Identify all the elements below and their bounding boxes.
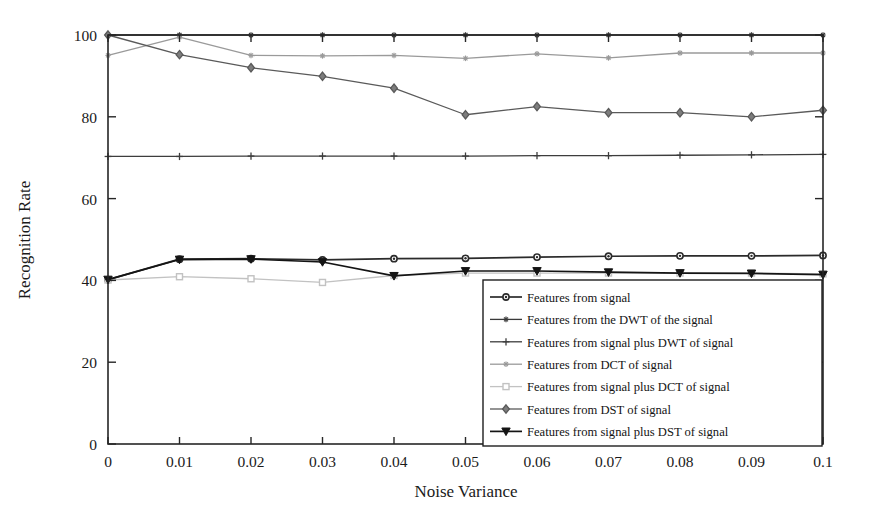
legend-label: Features from signal plus DCT of signal [527,380,730,394]
y-tick-label: 40 [82,272,98,289]
x-tick-label: 0.01 [166,453,193,470]
recognition-rate-line-chart: 00.010.020.030.040.050.060.070.080.090.1… [0,0,871,530]
data-point-circle [605,253,611,259]
data-point-star [248,53,253,59]
data-point-square [248,276,254,282]
series-5 [105,31,827,121]
legend-label: Features from signal plus DST of signal [527,425,729,439]
data-point-diamond [677,109,684,117]
data-point-plus [534,152,541,159]
series-2 [105,151,827,160]
legend-label: Features from signal plus DWT of signal [527,336,734,350]
y-tick-label: 0 [89,436,97,453]
data-point-plus [319,152,326,159]
data-point-circle [534,254,540,260]
x-tick-label: 0.05 [452,453,479,470]
data-point-circle [462,255,468,261]
series-layer [104,31,827,286]
data-point-plus [391,152,398,159]
data-point-circle [748,253,754,259]
x-axis-label: Noise Variance [414,482,517,501]
data-point-plus [748,151,755,158]
legend-item-2[interactable]: Features from signal plus DWT of signal [490,336,734,350]
data-point-diamond [534,102,541,110]
x-tick-label: 0 [104,453,112,470]
x-tick-label: 0.07 [595,453,622,470]
data-point-diamond [748,113,755,121]
y-tick-label: 60 [82,191,98,208]
legend-label: Features from DCT of signal [527,358,673,372]
data-point-diamond [605,109,612,117]
x-tick-label: 0.09 [738,453,765,470]
y-axis-label: Recognition Rate [15,181,34,300]
data-point-plus [462,152,469,159]
data-point-star [320,53,325,59]
data-point-star [391,53,396,59]
y-tick-label: 100 [74,27,98,44]
data-point-square [177,274,183,280]
chart-legend: Features from signalFeatures from the DW… [483,280,822,446]
legend-label: Features from DST of signal [527,403,671,417]
data-point-star [677,50,682,56]
data-point-diamond [462,111,469,119]
data-point-circle [391,256,397,262]
x-tick-label: 0.08 [666,453,693,470]
data-point-star [534,51,539,57]
y-tick-label: 20 [82,354,98,371]
data-point-diamond [176,50,183,58]
legend-item-4[interactable]: Features from signal plus DCT of signal [490,380,730,394]
chart-figure: 00.010.020.030.040.050.060.070.080.090.1… [0,0,871,530]
data-point-circle [503,294,509,300]
data-point-plus [176,153,183,160]
data-point-plus [605,152,612,159]
x-tick-label: 0.03 [309,453,336,470]
x-tick-label: 0.02 [237,453,264,470]
data-point-star [503,361,508,367]
data-point-plus [248,152,255,159]
data-point-star [503,317,508,323]
x-tick-label: 0.1 [813,453,832,470]
data-point-diamond [391,84,398,92]
data-point-star [606,55,611,61]
data-point-square [320,279,326,285]
data-point-square [503,384,509,390]
data-point-star [749,50,754,56]
legend-label: Features from signal [527,291,631,305]
data-point-diamond [319,72,326,80]
x-tick-label: 0.04 [380,453,407,470]
legend-label: Features from the DWT of the signal [527,313,713,327]
y-tick-label: 80 [82,109,98,126]
x-tick-label: 0.06 [523,453,550,470]
data-point-plus [677,152,684,159]
data-point-star [463,56,468,62]
data-point-circle [677,253,683,259]
data-point-diamond [248,64,255,72]
